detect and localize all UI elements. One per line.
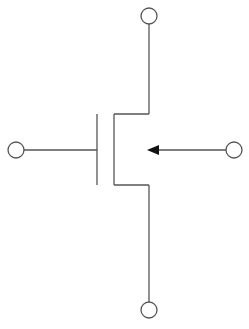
arrow-icon — [147, 145, 159, 155]
body-terminal[interactable] — [226, 142, 242, 158]
mosfet-symbol — [0, 0, 249, 329]
drain-terminal[interactable] — [141, 8, 157, 24]
gate-terminal[interactable] — [8, 142, 24, 158]
source-terminal[interactable] — [141, 302, 157, 318]
